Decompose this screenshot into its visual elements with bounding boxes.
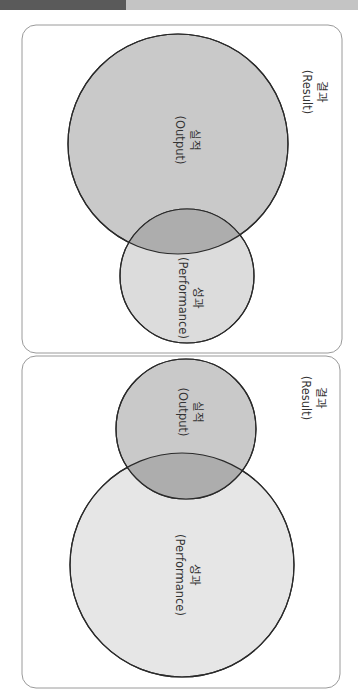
top-result-label: 결과 (Result) — [299, 70, 329, 115]
top-output-label-ko: 실적 — [187, 116, 202, 165]
bottom-performance-label-en: (Performance) — [172, 534, 187, 616]
bottom-performance-label: 성과 (Performance) — [172, 534, 202, 616]
bottom-performance-label-ko: 성과 — [187, 534, 202, 616]
top-result-label-ko: 결과 — [314, 70, 329, 115]
top-performance-label-en: (Performance) — [175, 257, 190, 339]
bottom-result-label-en: (Result) — [298, 376, 313, 421]
top-result-label-en: (Result) — [299, 70, 314, 115]
top-output-label: 실적 (Output) — [172, 116, 202, 165]
bottom-output-label-en: (Output) — [175, 388, 190, 437]
top-performance-label: 성과 (Performance) — [175, 257, 205, 339]
bottom-result-label-ko: 결과 — [313, 376, 328, 421]
top-performance-label-ko: 성과 — [190, 257, 205, 339]
bottom-result-label: 결과 (Result) — [298, 376, 328, 421]
bottom-output-label: 실적 (Output) — [175, 388, 205, 437]
top-output-label-en: (Output) — [172, 116, 187, 165]
bottom-output-label-ko: 실적 — [190, 388, 205, 437]
